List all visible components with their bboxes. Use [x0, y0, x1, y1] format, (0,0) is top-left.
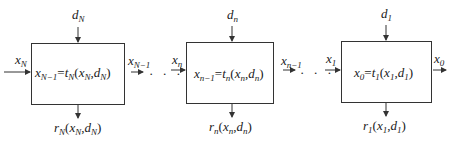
input-label-x1: x1	[326, 52, 336, 68]
decision-label-dN: dN	[72, 8, 85, 24]
label-sub: n	[178, 59, 183, 69]
label-sub: 0	[440, 58, 445, 68]
eq-part: )	[247, 119, 251, 134]
eq-part: n−1	[200, 73, 215, 83]
label-sub: N	[79, 14, 85, 24]
transform-equation-N: xN−1=tN(xN,dN)	[35, 66, 111, 82]
eq-part: =	[57, 65, 64, 80]
input-label-xn: xn	[172, 53, 182, 69]
eq-part: N−1	[41, 72, 58, 82]
label-sub: N	[21, 59, 27, 69]
output-label-xn-1: xn−1	[281, 54, 302, 70]
label-sub: N−1	[134, 60, 151, 70]
eq-part: )	[259, 66, 263, 81]
transform-equation-1: x0=t1(x1,d1)	[354, 66, 413, 82]
return-label-r1: r1(x1,d1)	[363, 119, 406, 135]
decision-label-dn: dn	[227, 8, 238, 24]
output-label-x0: x0	[434, 52, 444, 68]
transform-equation-n: xn−1=tn(xn,dn)	[194, 67, 264, 83]
eq-part: )	[401, 118, 405, 133]
return-label-rn: rn(xn,dn)	[209, 120, 252, 136]
output-label-xN-1: xN−1	[128, 54, 150, 70]
label-sub: 1	[332, 58, 337, 68]
eq-part: )	[97, 120, 101, 135]
label-sub: n	[234, 14, 239, 24]
eq-part: )	[106, 65, 110, 80]
eq-part: )	[409, 65, 413, 80]
eq-part: =	[364, 65, 371, 80]
decision-label-d1: d1	[381, 7, 392, 23]
label-sub: 1	[388, 13, 393, 23]
input-label-xN: xN	[15, 53, 27, 69]
return-label-rN: rN(xN,dN)	[54, 121, 101, 137]
